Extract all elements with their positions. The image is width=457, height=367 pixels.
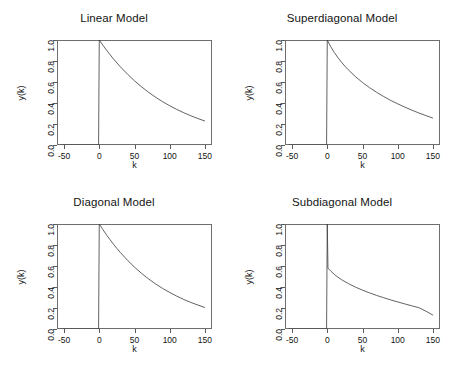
y-tick-label: 0.2 <box>46 124 56 136</box>
x-tick-label: -50 <box>58 335 70 345</box>
x-axis: -50050100150 <box>285 329 440 355</box>
panel-title: Diagonal Model <box>0 196 228 208</box>
x-tick <box>363 329 364 333</box>
y-axis-title: y(k) <box>242 224 254 329</box>
y-tick-label: 1.0 <box>274 40 284 52</box>
y-tick-label: 0.2 <box>274 308 284 320</box>
panel-title: Subdiagonal Model <box>228 196 456 208</box>
y-tick-label: 0.6 <box>274 266 284 278</box>
x-tick <box>135 329 136 333</box>
x-tick-label: 50 <box>130 151 139 161</box>
panel-superdiagonal-model: Superdiagonal Model y(k) k -50050100150 … <box>228 0 456 183</box>
y-axis-title: y(k) <box>14 224 26 329</box>
x-tick <box>363 145 364 149</box>
y-tick-label: 1.0 <box>274 224 284 236</box>
x-tick <box>398 145 399 149</box>
x-tick <box>99 329 100 333</box>
x-tick <box>398 329 399 333</box>
impulse-response-curve <box>61 224 205 329</box>
x-tick-label: 100 <box>163 335 177 345</box>
y-tick-label: 0.6 <box>46 266 56 278</box>
x-tick <box>64 329 65 333</box>
y-tick-label: 0.4 <box>46 287 56 299</box>
x-tick-label: 0 <box>97 335 102 345</box>
figure-canvas: Linear Model y(k) k -50050100150 0.00.20… <box>0 0 457 367</box>
x-tick <box>327 329 328 333</box>
panel-diagonal-model: Diagonal Model y(k) k -50050100150 0.00.… <box>0 184 228 367</box>
y-tick-label: 0.2 <box>274 124 284 136</box>
y-tick-label: 0.8 <box>46 245 56 257</box>
y-tick-label: 0.6 <box>274 82 284 94</box>
x-tick <box>170 329 171 333</box>
impulse-response-curve <box>61 40 205 145</box>
plot-area: -50050100150 0.00.20.40.60.81.0 <box>285 40 440 145</box>
y-axis: 0.00.20.40.60.81.0 <box>31 40 57 145</box>
x-tick-label: 150 <box>426 151 440 161</box>
x-axis: -50050100150 <box>57 329 212 355</box>
x-tick-label: 100 <box>391 335 405 345</box>
y-axis: 0.00.20.40.60.81.0 <box>31 224 57 329</box>
impulse-response-curve <box>289 40 433 145</box>
x-tick-label: -50 <box>286 151 298 161</box>
x-tick <box>292 329 293 333</box>
y-tick-label: 0.8 <box>46 61 56 73</box>
x-tick <box>292 145 293 149</box>
y-axis-title: y(k) <box>14 40 26 145</box>
y-axis-title: y(k) <box>242 40 254 145</box>
y-tick-label: 0.0 <box>274 329 284 341</box>
y-tick-label: 0.4 <box>274 287 284 299</box>
y-tick-label: 0.6 <box>46 82 56 94</box>
x-tick <box>170 145 171 149</box>
series-line <box>285 224 440 329</box>
y-tick-label: 0.8 <box>274 61 284 73</box>
panel-subdiagonal-model: Subdiagonal Model y(k) k -50050100150 0.… <box>228 184 456 367</box>
plot-area: -50050100150 0.00.20.40.60.81.0 <box>57 224 212 329</box>
x-axis: -50050100150 <box>285 145 440 171</box>
y-tick-label: 0.8 <box>274 245 284 257</box>
y-tick-label: 1.0 <box>46 224 56 236</box>
x-tick-label: 0 <box>325 151 330 161</box>
plot-area: -50050100150 0.00.20.40.60.81.0 <box>285 224 440 329</box>
y-axis: 0.00.20.40.60.81.0 <box>259 40 285 145</box>
y-tick-label: 1.0 <box>46 40 56 52</box>
x-tick-label: 0 <box>97 151 102 161</box>
x-tick <box>433 145 434 149</box>
panel-title: Superdiagonal Model <box>228 12 456 24</box>
y-tick-label: 0.2 <box>46 308 56 320</box>
panel-title: Linear Model <box>0 12 228 24</box>
x-tick <box>433 329 434 333</box>
x-tick-label: 100 <box>163 151 177 161</box>
panel-linear-model: Linear Model y(k) k -50050100150 0.00.20… <box>0 0 228 183</box>
x-tick <box>327 145 328 149</box>
x-tick <box>99 145 100 149</box>
impulse-response-curve <box>289 224 433 329</box>
x-tick <box>135 145 136 149</box>
y-tick-label: 0.4 <box>46 103 56 115</box>
x-tick <box>64 145 65 149</box>
x-tick-label: 100 <box>391 151 405 161</box>
x-tick-label: 150 <box>426 335 440 345</box>
x-tick-label: 0 <box>325 335 330 345</box>
x-tick-label: 150 <box>198 151 212 161</box>
y-tick-label: 0.0 <box>46 329 56 341</box>
series-line <box>285 40 440 145</box>
y-axis: 0.00.20.40.60.81.0 <box>259 224 285 329</box>
y-tick-label: 0.4 <box>274 103 284 115</box>
x-tick-label: 50 <box>358 335 367 345</box>
plot-area: -50050100150 0.00.20.40.60.81.0 <box>57 40 212 145</box>
x-tick-label: 50 <box>358 151 367 161</box>
series-line <box>57 40 212 145</box>
y-tick-label: 0.0 <box>46 145 56 157</box>
x-tick-label: -50 <box>286 335 298 345</box>
x-tick-label: 150 <box>198 335 212 345</box>
x-axis: -50050100150 <box>57 145 212 171</box>
x-tick-label: -50 <box>58 151 70 161</box>
x-tick <box>205 145 206 149</box>
series-line <box>57 224 212 329</box>
x-tick <box>205 329 206 333</box>
x-tick-label: 50 <box>130 335 139 345</box>
y-tick-label: 0.0 <box>274 145 284 157</box>
